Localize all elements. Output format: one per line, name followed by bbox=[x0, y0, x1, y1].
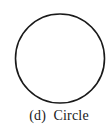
circle-figure: (d) Circle bbox=[0, 0, 110, 133]
circle-shape bbox=[16, 14, 105, 103]
figure-caption: (d) Circle bbox=[0, 108, 110, 124]
